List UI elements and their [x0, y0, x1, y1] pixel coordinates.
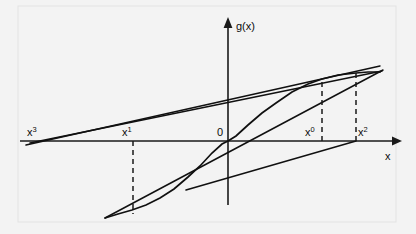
point-label-x3-exponent: 3: [33, 125, 37, 134]
secant-method-figure: g(x) x 0 x3 x1 x0: [0, 0, 416, 234]
figure-background: [0, 0, 416, 234]
point-label-x0-exponent: 0: [311, 125, 315, 134]
point-label-x2-exponent: 2: [364, 125, 368, 134]
point-label-x1-exponent: 1: [128, 125, 132, 134]
y-axis-label: g(x): [236, 20, 255, 32]
figure-container: g(x) x 0 x3 x1 x0: [0, 0, 416, 234]
origin-label: 0: [217, 126, 223, 138]
x-axis-label: x: [385, 150, 391, 162]
